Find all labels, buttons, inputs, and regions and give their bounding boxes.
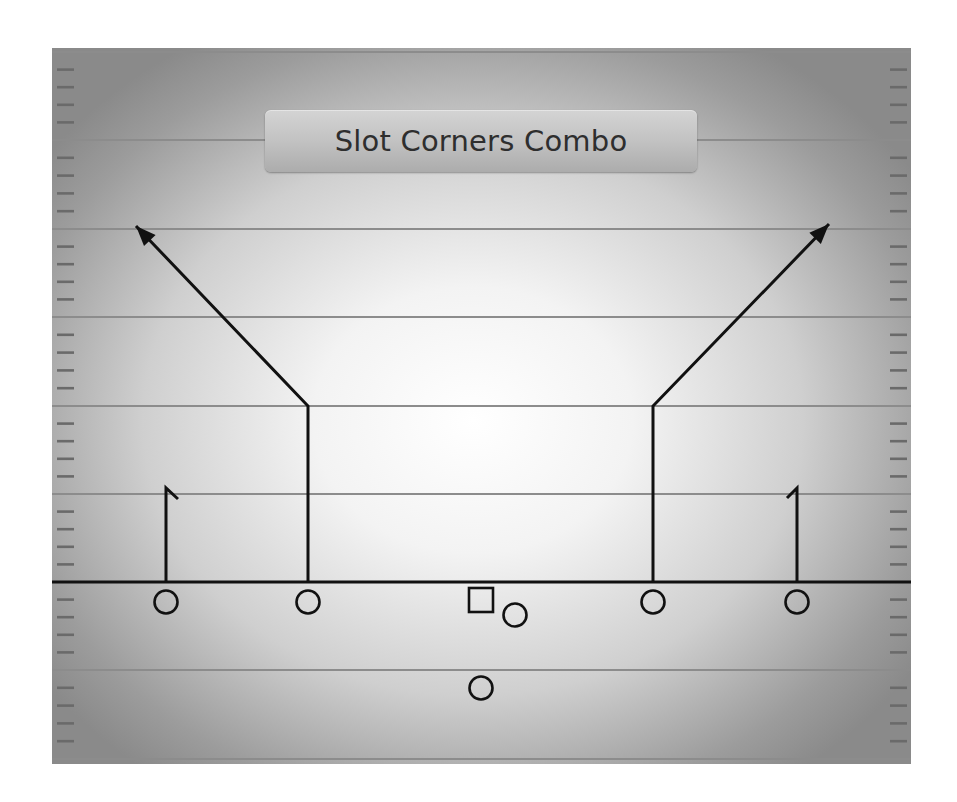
- players: [155, 588, 809, 700]
- running-back-circle-icon: [470, 677, 493, 700]
- left-slot-circle-icon: [297, 591, 320, 614]
- right-slot-circle-icon: [642, 591, 665, 614]
- center-square-icon: [469, 588, 493, 612]
- play-title-banner: Slot Corners Combo: [265, 110, 697, 172]
- right-slot-corner-route: [653, 224, 829, 582]
- left-wr-hitch-route: [166, 488, 178, 582]
- right-wr-hitch-route: [787, 488, 797, 582]
- left-slot-corner-route: [136, 226, 308, 582]
- routes: [136, 224, 829, 582]
- right-wr-circle-icon: [786, 591, 809, 614]
- left-wr-circle-icon: [155, 591, 178, 614]
- play-title: Slot Corners Combo: [335, 124, 628, 158]
- quarterback-circle-icon: [504, 604, 527, 627]
